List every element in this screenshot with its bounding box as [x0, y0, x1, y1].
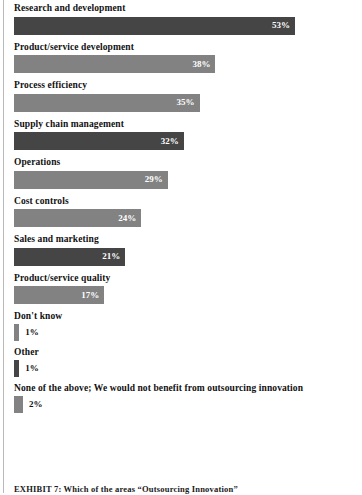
bar-row: Sales and marketing21%: [14, 233, 354, 266]
bar-row: Process efficiency35%: [14, 79, 354, 112]
figure-caption: EXHIBIT 7: Which of the areas “Outsourci…: [14, 484, 354, 495]
bar-track: 17%: [14, 286, 354, 304]
bar-track: 38%: [14, 55, 354, 73]
bar-category-label: None of the above; We would not benefit …: [14, 382, 354, 394]
bar: [14, 396, 23, 413]
bar-value-label: 32%: [161, 137, 184, 146]
bar-value-label: 17%: [81, 291, 104, 300]
bar-category-label: Research and development: [14, 2, 354, 14]
bar-track: 35%: [14, 94, 354, 112]
bar-value-label: 21%: [102, 252, 125, 261]
bar-row: Operations29%: [14, 156, 354, 189]
bar-value-label: 2%: [23, 400, 43, 409]
bar-category-label: Operations: [14, 156, 354, 168]
bar-row: None of the above; We would not benefit …: [14, 382, 354, 413]
bar-value-label: 38%: [192, 60, 215, 69]
bar-category-label: Don't know: [14, 310, 354, 322]
bar-value-label: 35%: [177, 98, 200, 107]
bar-track: 29%: [14, 171, 354, 189]
bar-track: 21%: [14, 248, 354, 266]
bar: 24%: [14, 209, 141, 227]
bar-category-label: Process efficiency: [14, 79, 354, 91]
bar-track: 1%: [14, 360, 354, 377]
bar-track: 53%: [14, 17, 354, 35]
bar-category-label: Other: [14, 346, 354, 358]
bar-category-label: Product/service quality: [14, 272, 354, 284]
bar-row: Don't know1%: [14, 310, 354, 341]
chart-plot-area: Research and development53%Product/servi…: [14, 2, 354, 418]
bar-row: Supply chain management32%: [14, 118, 354, 151]
bar: 29%: [14, 171, 168, 189]
bar-category-label: Product/service development: [14, 41, 354, 53]
bar: 53%: [14, 17, 295, 35]
bar-track: 1%: [14, 324, 354, 341]
bar: 38%: [14, 55, 215, 73]
bar-track: 32%: [14, 132, 354, 150]
bar-value-label: 29%: [145, 175, 168, 184]
bar-value-label: 1%: [19, 364, 39, 373]
bar-row: Product/service development38%: [14, 41, 354, 74]
bar-row: Research and development53%: [14, 2, 354, 35]
bar: 32%: [14, 132, 184, 150]
bar-value-label: 24%: [118, 214, 141, 223]
bar-value-label: 53%: [272, 21, 295, 30]
bar: 35%: [14, 94, 200, 112]
bar-value-label: 1%: [19, 328, 39, 337]
bar: 21%: [14, 248, 125, 266]
page-left-rule: [3, 0, 4, 493]
bar: 17%: [14, 286, 104, 304]
bar-row: Other1%: [14, 346, 354, 377]
bar-track: 24%: [14, 209, 354, 227]
bar-category-label: Sales and marketing: [14, 233, 354, 245]
bar-category-label: Cost controls: [14, 195, 354, 207]
bar-row: Cost controls24%: [14, 195, 354, 228]
bar-track: 2%: [14, 396, 354, 413]
bar-row: Product/service quality17%: [14, 272, 354, 305]
bar-category-label: Supply chain management: [14, 118, 354, 130]
